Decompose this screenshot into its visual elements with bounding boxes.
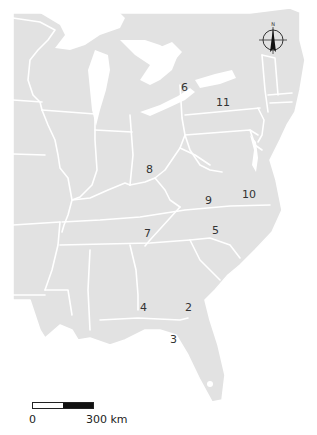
region-label-4: 4 <box>140 302 147 313</box>
map-canvas <box>0 0 317 435</box>
region-label-3: 3 <box>170 334 177 345</box>
scale-bar <box>32 402 94 409</box>
region-label-11: 11 <box>216 97 230 108</box>
region-label-5: 5 <box>212 225 219 236</box>
region-label-7: 7 <box>144 228 151 239</box>
region-label-8: 8 <box>146 164 153 175</box>
scale-bar-white-segment <box>33 403 63 408</box>
region-label-9: 9 <box>205 195 212 206</box>
scale-bar-black-segment <box>63 403 93 408</box>
region-label-10: 10 <box>242 189 256 200</box>
region-label-2: 2 <box>185 302 192 313</box>
scale-end-label: 300 km <box>86 414 128 425</box>
compass-north-label: N <box>271 21 275 27</box>
scale-start-label: 0 <box>29 414 36 425</box>
north-arrow-icon: N <box>256 20 290 60</box>
region-label-6: 6 <box>181 82 188 93</box>
